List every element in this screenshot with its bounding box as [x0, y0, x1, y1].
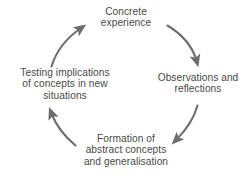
node-concrete-experience: Concrete experience — [76, 6, 176, 29]
node-testing-implications: Testing implications of concepts in new … — [8, 67, 122, 101]
node-observations-and-reflections: Observations and reflections — [146, 72, 250, 95]
arrow-top-left-icon — [52, 29, 81, 67]
kolb-cycle-diagram: Concrete experience Observations and ref… — [0, 0, 252, 180]
arrow-top-right-icon — [168, 26, 197, 61]
node-formation-of-abstract-concepts: Formation of abstract concepts and gener… — [63, 133, 189, 167]
